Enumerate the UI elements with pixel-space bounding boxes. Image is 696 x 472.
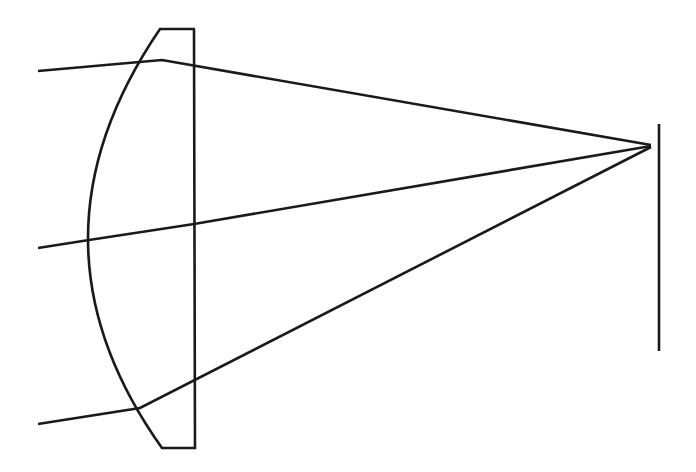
- background-plate: [0, 0, 696, 472]
- ray-diagram-svg: [0, 0, 696, 472]
- optical-diagram-canvas: [0, 0, 696, 472]
